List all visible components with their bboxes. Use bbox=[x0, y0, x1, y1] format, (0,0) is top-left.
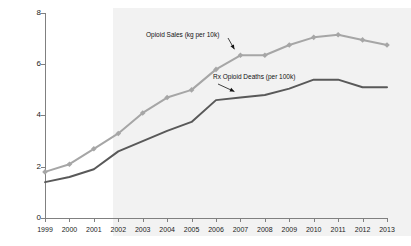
x-tick-label-2013: 2013 bbox=[372, 226, 402, 234]
series-line-opioid-sales bbox=[45, 35, 387, 172]
x-tick-mark bbox=[192, 218, 193, 222]
x-tick-mark bbox=[265, 218, 266, 222]
series-marker-opioid-sales bbox=[360, 37, 366, 43]
series-marker-opioid-sales bbox=[42, 169, 48, 175]
x-tick-mark bbox=[94, 218, 95, 222]
x-tick-mark bbox=[69, 218, 70, 222]
annotation-rx-opioid-deaths: Rx Opioid Deaths (per 100k) bbox=[213, 73, 295, 81]
x-tick-mark bbox=[338, 218, 339, 222]
x-tick-mark bbox=[118, 218, 119, 222]
x-tick-mark bbox=[240, 218, 241, 222]
opioid-trends-chart: 8 6 4 2 0 Opioid Sales (kg per 10k) Rx O… bbox=[0, 0, 411, 246]
x-tick-mark bbox=[387, 218, 388, 222]
series-marker-opioid-sales bbox=[384, 42, 390, 48]
series-marker-opioid-sales bbox=[335, 32, 341, 38]
annotation-opioid-sales: Opioid Sales (kg per 10k) bbox=[146, 31, 219, 39]
series-marker-opioid-sales bbox=[262, 52, 268, 58]
x-tick-mark bbox=[363, 218, 364, 222]
x-tick-mark bbox=[143, 218, 144, 222]
x-tick-mark bbox=[314, 218, 315, 222]
x-tick-mark bbox=[167, 218, 168, 222]
x-tick-mark bbox=[45, 218, 46, 222]
series-line-rx-opioid-deaths bbox=[45, 80, 387, 183]
x-tick-mark bbox=[216, 218, 217, 222]
series-marker-opioid-sales bbox=[286, 42, 292, 48]
series-marker-opioid-sales bbox=[311, 35, 317, 41]
x-tick-mark bbox=[289, 218, 290, 222]
